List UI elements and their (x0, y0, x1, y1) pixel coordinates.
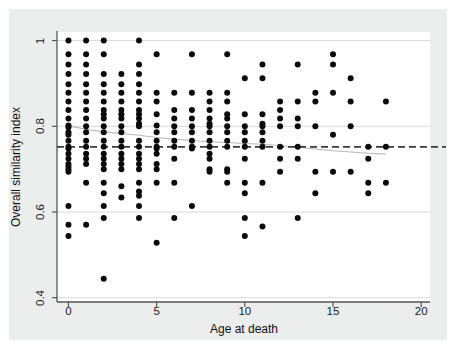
data-point (136, 166, 142, 172)
data-point (136, 98, 142, 104)
data-point (83, 129, 89, 135)
data-point (101, 90, 107, 96)
data-point (242, 123, 248, 129)
data-point (312, 90, 318, 96)
data-point (207, 98, 213, 104)
data-point (348, 169, 354, 175)
data-point (83, 138, 89, 144)
data-point (154, 166, 160, 172)
data-point (383, 98, 389, 104)
data-point (136, 156, 142, 162)
data-point (83, 116, 89, 122)
data-point (65, 169, 71, 175)
data-point (118, 98, 124, 104)
data-point (65, 222, 71, 228)
data-point (207, 107, 213, 113)
data-point (136, 71, 142, 77)
data-point (83, 107, 89, 113)
data-point (101, 51, 107, 57)
data-point (118, 166, 124, 172)
data-point (189, 123, 195, 129)
data-point (101, 116, 107, 122)
data-point (189, 129, 195, 135)
data-point (65, 151, 71, 157)
data-point (136, 193, 142, 199)
data-point (259, 224, 265, 230)
data-point (136, 116, 142, 122)
data-point (118, 161, 124, 167)
data-point (136, 215, 142, 221)
data-point (101, 190, 107, 196)
data-point (136, 180, 142, 186)
data-point (207, 138, 213, 144)
data-point (65, 156, 71, 162)
data-point (136, 62, 142, 68)
data-point (83, 156, 89, 162)
data-point (295, 144, 301, 150)
data-point (277, 98, 283, 104)
data-point (330, 51, 336, 57)
data-point (224, 169, 230, 175)
data-point (224, 123, 230, 129)
data-point (242, 111, 248, 117)
data-point (259, 75, 265, 81)
data-point (65, 203, 71, 209)
data-point (365, 180, 371, 186)
data-point (136, 144, 142, 150)
data-point (154, 51, 160, 57)
data-point (101, 138, 107, 144)
data-point (118, 116, 124, 122)
data-point (242, 233, 248, 239)
data-point (118, 123, 124, 129)
data-point (101, 129, 107, 135)
data-point (101, 81, 107, 87)
data-point (207, 151, 213, 157)
data-point (312, 123, 318, 129)
data-point (242, 190, 248, 196)
data-points (65, 38, 388, 282)
data-point (136, 38, 142, 44)
data-point (259, 62, 265, 68)
data-point (224, 98, 230, 104)
data-point (65, 146, 71, 152)
data-point (224, 129, 230, 135)
data-point (101, 144, 107, 150)
data-point (136, 123, 142, 129)
data-point (224, 144, 230, 150)
data-point (83, 222, 89, 228)
data-point (295, 116, 301, 122)
data-point (118, 71, 124, 77)
data-point (83, 81, 89, 87)
data-point (101, 166, 107, 172)
data-point (189, 116, 195, 122)
data-point (189, 90, 195, 96)
data-point (65, 90, 71, 96)
data-point (118, 183, 124, 189)
data-point (101, 71, 107, 77)
data-point (312, 190, 318, 196)
x-tick-label: 5 (153, 305, 159, 317)
data-point (118, 138, 124, 144)
data-point (154, 146, 160, 152)
data-point (189, 138, 195, 144)
data-point (295, 123, 301, 129)
data-point (154, 111, 160, 117)
data-point (154, 138, 160, 144)
data-point (101, 203, 107, 209)
data-point (65, 124, 71, 130)
data-point (242, 180, 248, 186)
y-tick-label: 0.4 (34, 290, 46, 306)
data-point (83, 38, 89, 44)
data-point (101, 180, 107, 186)
data-point (277, 144, 283, 150)
data-point (295, 156, 301, 162)
data-point (83, 98, 89, 104)
data-point (277, 169, 283, 175)
x-tick-label: 10 (238, 305, 251, 317)
data-point (189, 107, 195, 113)
data-point (171, 215, 177, 221)
data-point (224, 51, 230, 57)
data-point (65, 107, 71, 113)
data-point (383, 144, 389, 150)
data-point (330, 90, 336, 96)
